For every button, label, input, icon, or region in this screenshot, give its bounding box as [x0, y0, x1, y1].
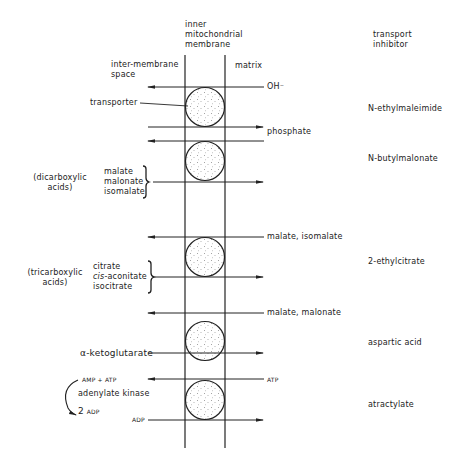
dicarboxylic-group-label: (dicarboxylic acids) — [30, 173, 90, 193]
group-label-line: acids) — [24, 278, 86, 288]
tricarboxylate-substrates: citrate cis-aconitate isocitrate — [93, 262, 147, 292]
substrate-cis-aconitate: cis-aconitate — [93, 272, 147, 282]
substrate-isocitrate: isocitrate — [93, 282, 147, 292]
ketoglutarate-label: α-ketoglutarate — [80, 348, 153, 358]
hydroxide-label: OH⁻ — [267, 82, 284, 92]
transporter-4 — [186, 322, 225, 361]
adp-label: ADP — [132, 415, 145, 425]
substrate-malate: malate — [104, 167, 145, 177]
brace-tricarboxylic — [148, 261, 154, 293]
inhibitor-aspartic-acid: aspartic acid — [368, 338, 422, 348]
intermembrane-space-header: inter-membrane space — [111, 60, 179, 80]
substrate-malonate: malonate — [104, 177, 145, 187]
group-label-line: (tricarboxylic — [24, 268, 86, 278]
matrix-header: matrix — [235, 61, 262, 71]
inhibitor-n-ethylmaleimide: N-ethylmaleimide — [368, 104, 442, 114]
inhibitor-column-header: transport inhibitor — [373, 30, 412, 50]
inhibitor-atractylate: atractylate — [368, 400, 414, 410]
membrane-header-line: mitochondrial — [185, 30, 243, 40]
transporter-label: transporter — [90, 98, 137, 108]
adenylate-kinase-curve-arrow — [66, 380, 78, 415]
malate-isomalate-label: malate, isomalate — [267, 232, 343, 242]
group-label-line: acids) — [30, 183, 90, 193]
inhibitor-2-ethylcitrate: 2-ethylcitrate — [368, 257, 425, 267]
atp-label: ATP — [267, 375, 279, 385]
intermembrane-header-line: space — [111, 70, 179, 80]
malate-malonate-label: malate, malonate — [267, 308, 341, 318]
membrane-header-line: membrane — [185, 40, 243, 50]
phosphate-label: phosphate — [267, 127, 311, 137]
intermembrane-header-line: inter-membrane — [111, 60, 179, 70]
membrane-header: inner mitochondrial membrane — [185, 20, 243, 50]
substrate-citrate: citrate — [93, 262, 147, 272]
amp-atp-label: AMP + ATP — [82, 375, 116, 385]
transporter-1 — [186, 88, 225, 127]
product-coefficient: 2 — [78, 406, 84, 416]
transporter-2 — [186, 142, 225, 181]
inhibitor-header-line: transport — [373, 30, 412, 40]
dicarboxylate-substrates: malate malonate isomalate — [104, 167, 145, 197]
transporter-pointer — [140, 103, 188, 106]
adenylate-kinase-label: adenylate kinase — [78, 389, 150, 399]
tricarboxylic-group-label: (tricarboxylic acids) — [24, 268, 86, 288]
membrane-diagram — [0, 0, 459, 468]
substrate-isomalate: isomalate — [104, 187, 145, 197]
inhibitor-header-line: inhibitor — [373, 40, 412, 50]
adp-product-label: 2 ADP — [78, 406, 100, 417]
membrane-header-line: inner — [185, 20, 243, 30]
group-label-line: (dicarboxylic — [30, 173, 90, 183]
transporter-5 — [186, 381, 225, 420]
transporter-3 — [186, 238, 225, 277]
product-adp: ADP — [87, 408, 100, 415]
inhibitor-n-butylmalonate: N-butylmalonate — [368, 154, 438, 164]
